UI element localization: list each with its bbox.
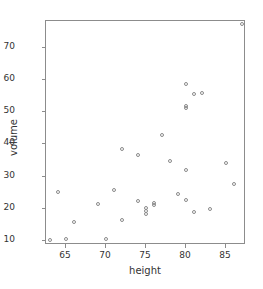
y-tick <box>42 176 46 177</box>
x-tick-label: 65 <box>59 250 70 260</box>
data-point <box>160 133 164 137</box>
y-axis-label: volume <box>8 103 19 173</box>
data-point <box>192 92 196 96</box>
data-point <box>120 218 124 222</box>
scatter-plot-figure: 10203040506070 6570758085 height volume <box>0 0 263 289</box>
x-tick-label: 70 <box>99 250 110 260</box>
data-point <box>200 91 204 95</box>
data-point <box>56 190 60 194</box>
x-tick-label: 80 <box>179 250 190 260</box>
data-point <box>176 192 180 196</box>
data-point <box>224 161 228 165</box>
y-tick-label: 10 <box>4 234 15 244</box>
data-point <box>184 198 188 202</box>
data-point <box>72 220 76 224</box>
x-tick <box>225 244 226 248</box>
x-tick <box>65 244 66 248</box>
x-tick <box>145 244 146 248</box>
data-point <box>184 106 188 110</box>
data-points-layer <box>46 21 244 243</box>
y-tick <box>42 208 46 209</box>
x-axis-label: height <box>45 265 245 276</box>
data-point <box>64 237 68 241</box>
data-point <box>136 199 140 203</box>
x-tick <box>185 244 186 248</box>
data-point <box>184 168 188 172</box>
data-point <box>168 159 172 163</box>
data-point <box>232 182 236 186</box>
y-tick-label: 70 <box>4 41 15 51</box>
data-point <box>112 188 116 192</box>
data-point <box>96 202 100 206</box>
x-tick-label: 85 <box>219 250 230 260</box>
data-point <box>144 209 148 213</box>
data-point <box>184 82 188 86</box>
y-tick <box>42 79 46 80</box>
y-tick <box>42 111 46 112</box>
data-point <box>240 22 244 26</box>
y-tick <box>42 47 46 48</box>
x-tick <box>105 244 106 248</box>
y-tick-label: 60 <box>4 73 15 83</box>
y-tick <box>42 143 46 144</box>
plot-area <box>45 20 245 244</box>
data-point <box>48 238 52 242</box>
data-point <box>192 210 196 214</box>
x-axis-ticks <box>45 244 245 250</box>
y-tick-label: 20 <box>4 202 15 212</box>
data-point <box>208 207 212 211</box>
data-point <box>136 153 140 157</box>
y-tick <box>42 240 46 241</box>
data-point <box>120 147 124 151</box>
x-tick-label: 75 <box>139 250 150 260</box>
data-point <box>104 237 108 241</box>
